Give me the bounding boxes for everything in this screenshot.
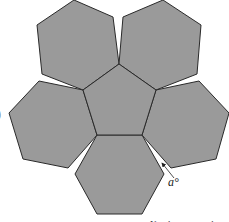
angle-label: a° <box>168 175 179 189</box>
geometry-diagram: a° ) Not drawn to scale <box>0 0 229 222</box>
left-edge-glyph: ) <box>0 107 1 121</box>
hexagon-bottom <box>75 135 164 214</box>
bottom-cut-caption: Not drawn to scale <box>150 219 218 222</box>
